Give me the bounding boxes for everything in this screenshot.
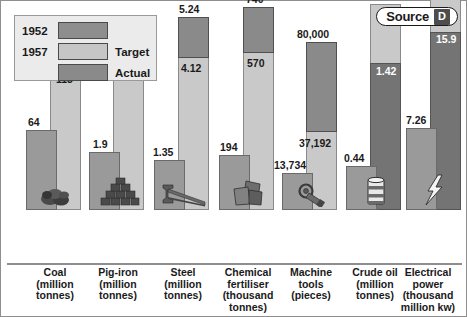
bar-electrical-power-1952 [406, 128, 437, 210]
value-machine-tools-target: 80,000 [297, 29, 329, 40]
value-crude-oil-target: 2 [382, 0, 388, 1]
value-crude-oil-actual: 1.42 [376, 66, 396, 77]
chart-frame: Source D 1952 1957 Target Actual [0, 0, 467, 317]
value-chemical-fertiliser-1952: 194 [220, 142, 238, 153]
legend-year-1952: 1952 [22, 25, 58, 37]
value-machine-tools-1952: 13,734 [274, 160, 306, 171]
value-chemical-fertiliser-actual: 570 [247, 58, 265, 69]
bar-steel-1952 [154, 160, 185, 210]
value-electrical-power-actual: 15.9 [436, 34, 456, 45]
legend-row-1952: 1952 [22, 21, 156, 40]
legend-year-1957: 1957 [22, 46, 58, 58]
value-electrical-power-1952: 7.26 [406, 115, 426, 126]
legend-swatch-actual [58, 64, 108, 81]
legend-label-target: Target [115, 46, 149, 58]
source-letter: D [434, 9, 450, 25]
value-pig-iron-1952: 1.9 [93, 139, 108, 150]
bar-crude-oil-1952 [346, 166, 377, 210]
bar-pig-iron-1952 [89, 152, 120, 210]
legend-row-target: 1957 Target [22, 42, 156, 61]
value-steel-target: 5.24 [179, 4, 199, 15]
legend: 1952 1957 Target Actual [14, 15, 157, 81]
bar-steel-actual-segment [178, 17, 209, 58]
value-steel-1952: 1.35 [153, 147, 173, 158]
legend-row-actual: Actual [22, 63, 156, 82]
category-chemical-fertiliser-line-4: tonnes) [209, 302, 287, 314]
bar-chemical-fertiliser-actual-segment [243, 7, 274, 53]
legend-label-actual: Actual [115, 67, 150, 79]
source-badge: Source D [376, 7, 458, 26]
bar-machine-tools-1952 [282, 173, 313, 210]
category-electrical-power-line-4: million kw) [389, 302, 467, 314]
legend-swatch-target [58, 43, 108, 60]
value-chemical-fertiliser-target: 740 [246, 0, 264, 4]
value-crude-oil-1952: 0.44 [344, 153, 364, 164]
bar-group-crude-oil: 0.44 2 1.42 [346, 1, 406, 210]
category-electrical-power-line-1: Electrical [389, 267, 467, 279]
bar-group-chemical-fertiliser: 194 740 570 [219, 1, 279, 210]
category-label-electrical-power: Electrical power (thousand million kw) [389, 267, 467, 313]
bar-group-electrical-power: 7.26 19.1 15.9 [406, 1, 464, 210]
value-steel-actual: 4.12 [181, 63, 201, 74]
chart-baseline [7, 263, 462, 265]
value-machine-tools-actual: 37,192 [299, 138, 331, 149]
legend-swatch-1952 [58, 22, 108, 39]
bar-group-machine-tools: 13,734 80,000 37,192 [282, 1, 342, 210]
bar-machine-tools-actual-segment [306, 42, 337, 132]
value-coal-1952: 64 [28, 117, 40, 128]
bar-chemical-fertiliser-1952 [219, 155, 250, 210]
bar-coal-1952 [26, 130, 57, 210]
source-label: Source [386, 10, 429, 23]
bar-group-steel: 1.35 5.24 4.12 [154, 1, 214, 210]
